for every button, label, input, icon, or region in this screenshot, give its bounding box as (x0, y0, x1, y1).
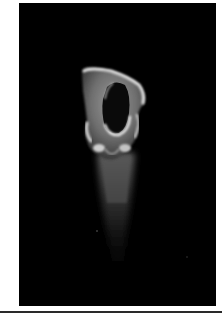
specimen-flange-left (93, 144, 105, 152)
bottom-divider (0, 311, 222, 313)
specimen-flange-right (119, 144, 131, 152)
specimen-graphic (19, 3, 216, 306)
micrograph-image (19, 3, 216, 306)
